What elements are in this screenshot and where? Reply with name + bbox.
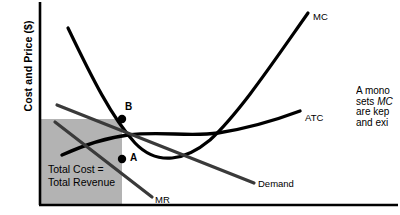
point-b-marker [118,115,126,123]
curve-label-atc: ATC [305,112,323,123]
total-cost-revenue-region [41,119,122,204]
side-note-line-2-prefix: sets [356,96,377,107]
side-note-text: A mono sets MC are kep and exi [356,86,400,128]
total-cost-revenue-label-line1: Total Cost = [48,163,104,176]
point-a-marker [118,155,126,163]
point-label-b: B [125,101,132,112]
curve-label-demand: Demand [258,178,294,189]
total-cost-revenue-label-line2: Total Revenue [48,176,115,189]
curve-label-mc: MC [313,11,328,22]
curve-label-mr: MR [155,194,170,205]
y-axis-label: Cost and Price ($) [22,0,34,146]
economics-diagram: Cost and Price ($) B A MC ATC Demand MR … [0,0,400,215]
side-note-line-4: and exi [356,118,400,129]
side-note-line-2-emphasis: MC [377,96,393,107]
point-label-a: A [130,152,137,163]
